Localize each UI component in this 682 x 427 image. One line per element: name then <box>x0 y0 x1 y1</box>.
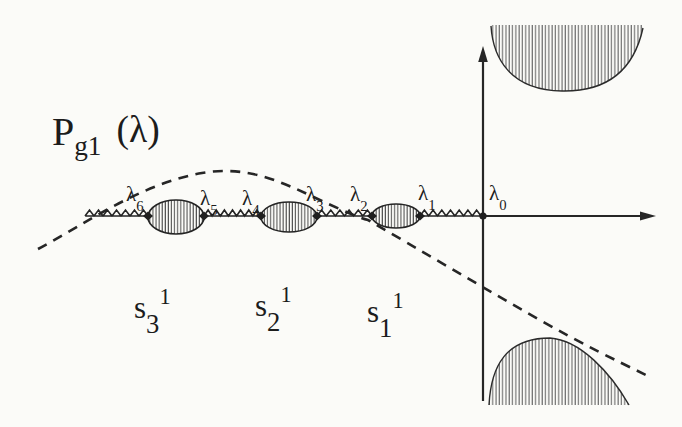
vertical-axis-arrowhead-icon <box>478 46 488 62</box>
lambda-4-label: λ4 <box>242 188 260 209</box>
upper-continuum-fill <box>491 25 643 91</box>
lambda0-marker <box>479 212 486 219</box>
band-ellipse-lambda6-lambda5 <box>148 200 204 234</box>
lambda-2-label: λ2 <box>350 184 368 205</box>
polynomial-label-sub: g1 <box>74 131 101 161</box>
spectral-bands <box>148 200 420 234</box>
horizontal-axis-arrowhead-icon <box>640 212 656 221</box>
band-ellipse-lambda2-lambda1 <box>372 204 420 228</box>
lambda-0-label: λ0 <box>489 183 507 204</box>
upper-continuum-region <box>491 25 643 91</box>
gap-label-s1: s11 <box>367 296 404 327</box>
gap-label-s3: s31 <box>134 292 171 323</box>
lambda-1-label: λ1 <box>418 183 436 204</box>
lower-continuum-region <box>489 338 629 405</box>
gap-label-s2: s21 <box>255 290 292 321</box>
lambda-6-label: λ6 <box>126 184 144 205</box>
spectral-diagram-figure: Pg1(λ) λ6 λ5 λ4 λ3 λ2 λ1 λ0 s31 s21 s11 <box>0 0 682 427</box>
lambda-3-label: λ3 <box>306 184 324 205</box>
lambda-5-label: λ5 <box>200 188 218 209</box>
figure-canvas <box>0 0 682 427</box>
polynomial-label-base: P <box>52 109 74 154</box>
polynomial-label-arg: (λ) <box>116 109 159 150</box>
lower-continuum-fill <box>489 338 629 405</box>
polynomial-label: Pg1(λ) <box>52 112 160 152</box>
band-ellipse-lambda4-lambda3 <box>261 202 317 232</box>
